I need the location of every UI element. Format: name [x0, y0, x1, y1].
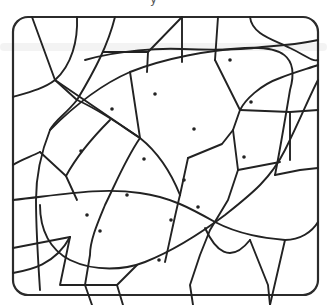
region-dot — [85, 213, 89, 217]
region-border-line — [180, 158, 188, 195]
region-border-line — [13, 152, 40, 165]
region-puzzle: y — [0, 0, 327, 305]
region-dot — [157, 258, 161, 262]
region-dot — [169, 218, 173, 222]
region-border-line — [275, 168, 318, 175]
region-border-line — [233, 130, 238, 170]
region-dot — [242, 155, 246, 159]
region-border-line — [205, 228, 250, 253]
region-dot — [79, 149, 83, 153]
region-dot — [153, 92, 157, 96]
region-border-line — [215, 60, 318, 110]
region-border-line — [130, 72, 140, 138]
region-border-line — [140, 138, 180, 195]
region-dot — [142, 157, 146, 161]
region-border-line — [190, 170, 238, 305]
region-dots — [79, 58, 253, 262]
region-dot — [192, 127, 196, 131]
title-fragment: y — [150, 0, 157, 4]
region-border-line — [215, 17, 218, 60]
region-dot — [196, 205, 200, 209]
region-border-line — [13, 237, 70, 248]
region-dot — [249, 100, 253, 104]
region-dot — [125, 193, 129, 197]
region-dot — [228, 58, 232, 62]
region-border-line — [85, 138, 140, 305]
region-dot — [110, 107, 114, 111]
region-border-line — [66, 120, 110, 176]
region-border-line — [77, 100, 140, 138]
region-border-line — [13, 191, 318, 240]
region-border-line — [240, 110, 318, 112]
region-border-line — [13, 17, 77, 97]
region-border-line — [147, 52, 148, 72]
puzzle-canvas — [0, 0, 327, 305]
region-border-line — [188, 110, 240, 158]
region-dot — [182, 178, 186, 182]
region-borders — [13, 17, 318, 305]
photo-glare — [0, 43, 327, 51]
region-border-line — [165, 195, 180, 262]
region-dot — [98, 229, 102, 233]
